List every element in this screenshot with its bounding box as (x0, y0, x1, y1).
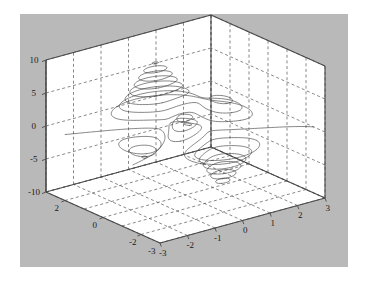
x-tick-label: -1 (214, 234, 222, 243)
z-tick-label: 10 (30, 56, 39, 65)
y-tick-label: -3 (148, 247, 156, 256)
x-tick-label: 2 (298, 211, 303, 220)
z-tick-label: 5 (32, 89, 37, 98)
y-tick-label: -2 (129, 238, 137, 247)
x-tick-label: 1 (271, 219, 276, 228)
y-tick-mark (61, 201, 65, 203)
z-tick-label: 0 (32, 122, 37, 131)
z-tick-mark (42, 93, 46, 95)
contour3-plot (0, 0, 369, 289)
x-tick-mark (188, 236, 189, 240)
z-tick-mark (42, 192, 46, 194)
z-tick-label: -10 (28, 188, 40, 197)
x-tick-label: 0 (243, 226, 248, 235)
x-tick-mark (325, 198, 326, 202)
y-tick-label: 2 (55, 204, 60, 213)
x-tick-mark (243, 221, 244, 225)
x-tick-mark (160, 243, 161, 247)
x-tick-mark (298, 206, 299, 210)
y-tick-mark (99, 218, 103, 220)
z-tick-mark (42, 60, 46, 62)
x-tick-label: -2 (187, 241, 195, 250)
y-tick-label: 0 (93, 221, 98, 230)
z-tick-mark (42, 126, 46, 128)
x-tick-label: 3 (326, 204, 331, 213)
x-tick-mark (270, 213, 271, 217)
z-tick-mark (42, 159, 46, 161)
x-tick-mark (215, 228, 216, 232)
figure-page: 1050-5-1020-2-3-3-2-10123 (0, 0, 369, 289)
x-tick-label: -3 (159, 249, 167, 258)
y-tick-mark (137, 235, 141, 237)
z-tick-label: -5 (30, 155, 38, 164)
